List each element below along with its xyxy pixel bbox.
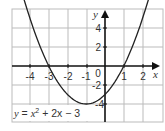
parabola-curve xyxy=(19,0,154,104)
origin-label: 0 xyxy=(95,68,101,79)
y-axis-label: y xyxy=(92,8,98,20)
parabola-chart: -4 -3 -2 -1 0 1 2 4 2 -2 -4 y x y = x2 +… xyxy=(0,0,165,131)
y-tick-label: -4 xyxy=(95,99,104,110)
y-tick-label: 4 xyxy=(95,23,101,34)
x-tick-label: 1 xyxy=(121,71,127,82)
x-axis-label: x xyxy=(152,68,158,80)
x-tick-label: -4 xyxy=(26,71,35,82)
y-axis-arrow-icon xyxy=(101,10,109,18)
equation-label: y = x2 + 2x − 3 xyxy=(13,107,80,119)
y-tick-label: 2 xyxy=(95,42,101,53)
x-tick-label: -2 xyxy=(64,71,73,82)
x-tick-labels: -4 -3 -2 -1 0 1 2 xyxy=(26,68,147,82)
x-tick-label: -1 xyxy=(82,71,91,82)
x-tick-label: -3 xyxy=(45,71,54,82)
y-tick-label: -2 xyxy=(92,80,101,91)
x-tick-label: 2 xyxy=(140,71,146,82)
